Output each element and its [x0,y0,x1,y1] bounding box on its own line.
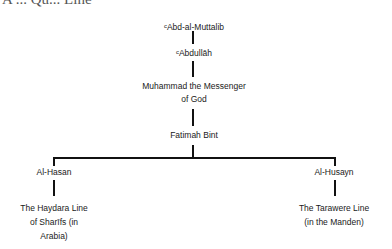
connector-line [192,61,194,77]
branch-line [53,157,336,159]
node-haydara-line: The Haydara Line of Sharīfs (in Arabia) [20,201,88,243]
node-muhammad: Muhammad the Messenger of God [142,80,245,106]
connector-line [192,109,194,126]
connector-line [334,180,336,196]
node-abd-al-muttalib: cAbd-al-Muttalib [164,20,224,34]
node-al-husayn: Al-Husayn [314,166,353,179]
node-fatimah: Fatimah Bint [170,129,218,142]
connector-line [53,157,55,166]
connector-line [53,180,55,196]
page-heading-fragment: A ... Qu... Line [2,0,92,8]
node-tarawere-line: The Tarawere Line (in the Manden) [299,201,369,229]
node-al-hasan: Al-Hasan [37,166,72,179]
connector-line [192,31,194,44]
node-abdullah: cAbdullāh [176,46,212,60]
connector-line [334,157,336,166]
